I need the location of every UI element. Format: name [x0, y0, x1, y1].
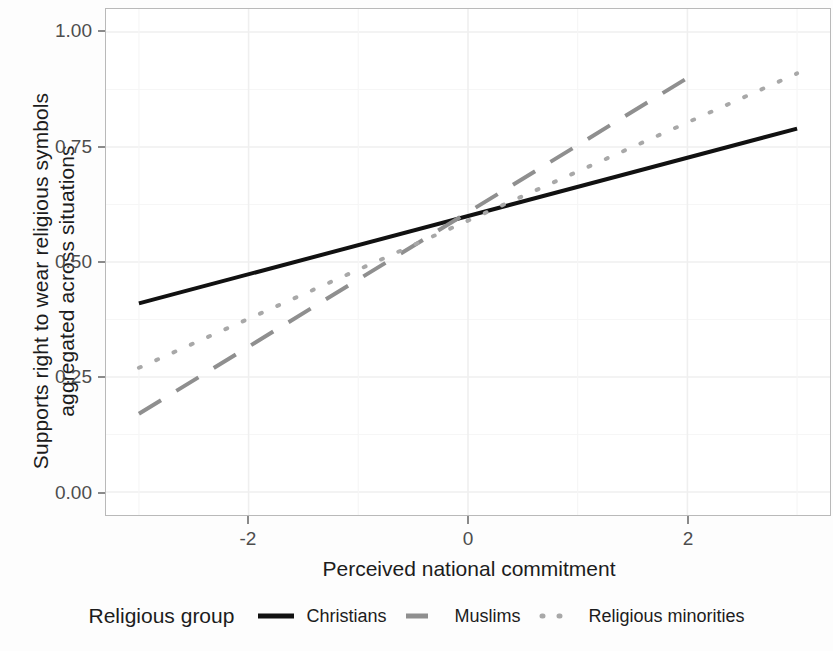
x-axis-tick-mark	[467, 516, 469, 524]
x-axis-tick-label: -2	[218, 528, 278, 550]
legend-key-dotted-icon	[538, 608, 578, 624]
legend-item-muslims[interactable]: Muslims	[404, 606, 520, 627]
x-axis-tick-mark	[687, 516, 689, 524]
x-axis-title: Perceived national commitment	[105, 557, 833, 581]
plot-area	[106, 9, 830, 515]
y-axis-tick-label: 1.00	[32, 20, 92, 42]
legend-item-christians[interactable]: Christians	[256, 606, 386, 627]
legend-label-muslims: Muslims	[454, 606, 520, 627]
y-axis-tick-label: 0.25	[32, 366, 92, 388]
plot-panel	[105, 8, 831, 516]
x-axis-tick-label: 0	[438, 528, 498, 550]
chart-figure: Supports right to wear religious symbols…	[0, 0, 833, 651]
y-axis-tick-label: 0.00	[32, 482, 92, 504]
y-axis-tick-labels: 0.000.250.500.751.00	[30, 0, 92, 651]
chart-legend: Religious group Christians Muslims Relig…	[0, 604, 833, 628]
legend-item-religious-minorities[interactable]: Religious minorities	[538, 606, 744, 627]
x-axis-tick-mark	[247, 516, 249, 524]
legend-title: Religious group	[88, 604, 234, 628]
legend-key-dashed-icon	[404, 608, 444, 624]
legend-label-religious-minorities: Religious minorities	[588, 606, 744, 627]
y-axis-tick-label: 0.50	[32, 251, 92, 273]
series-line-muslims	[139, 78, 687, 414]
legend-key-solid-icon	[256, 608, 296, 624]
x-axis-tick-label: 2	[658, 528, 718, 550]
gridlines	[106, 9, 830, 515]
y-axis-tick-label: 0.75	[32, 136, 92, 158]
legend-label-christians: Christians	[306, 606, 386, 627]
